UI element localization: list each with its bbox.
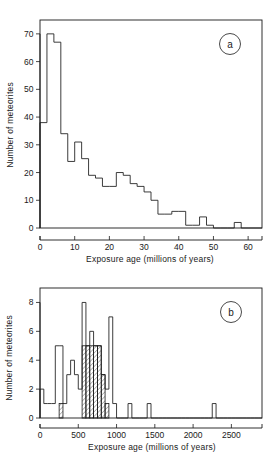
panel-a-y-axis-title: Number of meteorites (5, 82, 15, 168)
x-tick-label: 1500 (145, 430, 164, 440)
y-tick-label: 0 (29, 413, 34, 423)
y-tick-label: 0 (29, 223, 34, 233)
panel-b-x-axis-title: Exposure age (millions of years) (88, 442, 216, 452)
y-tick-label: 8 (29, 297, 34, 307)
hatched-bar (101, 375, 105, 418)
y-tick-label: 40 (24, 112, 34, 122)
panel-b-label: b (228, 307, 234, 318)
y-tick-label: 50 (24, 84, 34, 94)
y-tick-label: 60 (24, 57, 34, 67)
x-tick-label: 40 (174, 242, 184, 252)
y-tick-label: 10 (24, 195, 34, 205)
panel-b-histogram (40, 302, 262, 418)
panel-b-ticks (36, 302, 231, 428)
panel-b-label-badge: b (221, 302, 242, 323)
panel-b-plot: 0246805001000150020002500 b Number of me… (0, 270, 274, 467)
x-tick-label: 30 (139, 242, 149, 252)
hatched-bar (94, 346, 98, 418)
y-tick-label: 30 (24, 140, 34, 150)
panel-a-frame (40, 20, 262, 240)
histogram-outline (40, 34, 262, 228)
y-tick-label: 20 (24, 168, 34, 178)
figure-container: 0102030405060700102030405060 a Number of… (0, 0, 274, 467)
histogram-outline (40, 302, 262, 418)
x-tick-label: 50 (209, 242, 219, 252)
panel-b-y-axis-title: Number of meteorites (4, 315, 14, 401)
y-tick-label: 6 (29, 326, 34, 336)
x-tick-label: 500 (71, 430, 85, 440)
hatched-bar (97, 346, 101, 418)
x-tick-label: 0 (38, 430, 43, 440)
y-tick-label: 70 (24, 29, 34, 39)
panel-a: 0102030405060700102030405060 a Number of… (0, 0, 274, 270)
panel-a-histogram (40, 34, 262, 228)
x-tick-label: 2500 (222, 430, 241, 440)
x-tick-label: 2000 (184, 430, 203, 440)
hatched-bar (90, 346, 94, 418)
x-tick-label: 0 (38, 242, 43, 252)
panel-a-tick-labels: 0102030405060700102030405060 (24, 29, 253, 252)
panel-a-label: a (227, 39, 233, 50)
y-tick-label: 4 (29, 355, 34, 365)
panel-b-tick-labels: 0246805001000150020002500 (29, 297, 241, 440)
hatched-bar (86, 346, 90, 418)
panel-a-label-badge: a (220, 34, 241, 55)
hatched-bar (59, 404, 63, 418)
panel-a-x-axis-title: Exposure age (millions of years) (86, 254, 214, 264)
hatched-bar (105, 404, 109, 418)
y-tick-label: 2 (29, 384, 34, 394)
x-tick-label: 20 (105, 242, 115, 252)
panel-a-plot: 0102030405060700102030405060 a Number of… (0, 0, 274, 270)
x-tick-label: 10 (70, 242, 80, 252)
hatched-bar (82, 346, 86, 418)
x-tick-label: 60 (243, 242, 253, 252)
panel-b: 0246805001000150020002500 b Number of me… (0, 270, 274, 467)
x-tick-label: 1000 (107, 430, 126, 440)
